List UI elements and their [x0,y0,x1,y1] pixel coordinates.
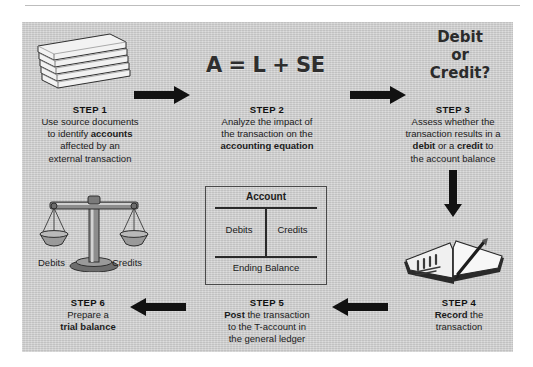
step-4-title: STEP 4 [404,297,514,308]
step-3-title: STEP 3 [378,104,528,115]
document-stack-illustration [28,28,148,94]
step-3-body: Assess whether thetransaction results in… [378,116,528,165]
t-account-ending-balance-label: Ending Balance [206,262,326,273]
t-account-credits-label: Credits [268,224,317,235]
open-book-with-pen-illustration [396,228,512,298]
arrow-step2-to-step3 [350,84,408,106]
step-2-block: STEP 2 Analyze the impact ofthe transact… [192,104,342,153]
t-account-bottom-rule [215,256,317,258]
arrow-step3-to-step4 [442,170,464,218]
debit-or-credit-line-2: or [400,46,520,64]
top-divider-rule [25,5,520,6]
step-5-block: STEP 5 Post the transactionto the T-acco… [192,297,342,346]
arrow-step1-to-step2 [134,84,192,106]
step-6-body: Prepare atrial balance [28,309,148,333]
step-6-title: STEP 6 [28,297,148,308]
debit-or-credit-heading: Debit or Credit? [400,28,520,82]
step-1-title: STEP 1 [15,104,165,115]
t-account-header: Account [206,191,326,202]
step-2-title: STEP 2 [192,104,342,115]
accounting-equation: A = L + SE [206,53,325,77]
debit-or-credit-line-1: Debit [400,28,520,46]
t-account-diagram: Account Debits Credits Ending Balance [205,186,327,285]
scales-debits-label: Debits [38,257,65,268]
step-5-title: STEP 5 [192,297,342,308]
debit-or-credit-line-3: Credit? [400,64,520,82]
step-1-body: Use source documentsto identify accounts… [15,116,165,165]
t-account-debits-label: Debits [215,224,263,235]
step-3-block: STEP 3 Assess whether thetransaction res… [378,104,528,165]
step-5-body: Post the transactionto the T-account int… [192,309,342,346]
figure-canvas: A = L + SE Debit or Credit? STEP 1 Use s… [0,0,533,367]
step-6-block: STEP 6 Prepare atrial balance [28,297,148,333]
step-4-block: STEP 4 Record thetransaction [404,297,514,333]
step-4-body: Record thetransaction [404,309,514,333]
step-1-block: STEP 1 Use source documentsto identify a… [15,104,165,165]
step-2-body: Analyze the impact ofthe transaction on … [192,116,342,153]
scales-credits-label: Credits [112,257,142,268]
t-account-vertical-rule [265,207,267,256]
